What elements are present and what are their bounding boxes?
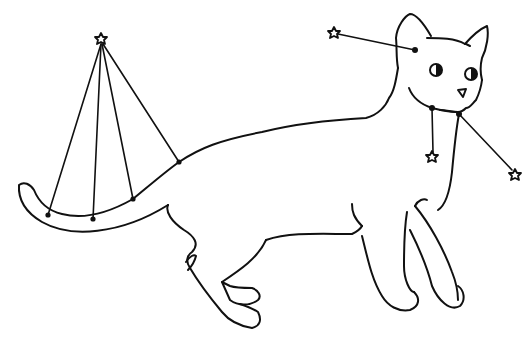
cat-constellation-image: Line drawing of a walking cat overlaid w… — [0, 0, 532, 344]
chest-star-icon — [509, 169, 521, 180]
head-constellation — [338, 34, 512, 170]
stars — [95, 27, 521, 180]
cat-drawing — [0, 0, 532, 344]
tail-constellation — [45, 44, 181, 222]
ear-star-icon — [328, 27, 340, 38]
tail-apex-star-icon — [95, 33, 107, 44]
chin-star-icon — [426, 151, 438, 162]
cat-outline — [19, 14, 488, 328]
